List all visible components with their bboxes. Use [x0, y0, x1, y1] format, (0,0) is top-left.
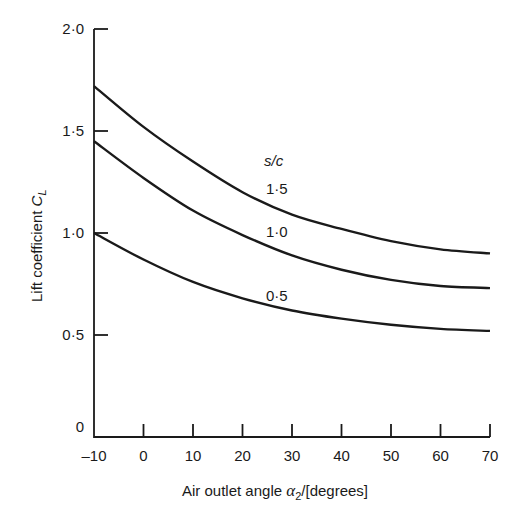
- x-axis-label: Air outlet angle α2/[degrees]: [182, 481, 368, 502]
- y-tick-label: 0·5: [62, 326, 84, 343]
- x-tick-label: 20: [234, 447, 251, 464]
- y-tick-label: 1·0: [62, 224, 84, 241]
- axes: [94, 29, 490, 437]
- x-tick-label: 10: [185, 447, 202, 464]
- series-label-0-5: 0·5: [266, 287, 288, 304]
- x-tick-label: 50: [383, 447, 400, 464]
- y-tick-label: 2·0: [62, 20, 84, 37]
- curve-sc-1-5: [94, 86, 490, 253]
- x-tick-label: 30: [284, 447, 301, 464]
- curves: [94, 86, 490, 331]
- x-axis-ticks: –10010203040506070: [81, 424, 498, 464]
- series-label-1-0: 1·0: [266, 223, 288, 240]
- x-tick-label: 60: [432, 447, 449, 464]
- axis-lines: [94, 29, 490, 437]
- x-tick-label: –10: [81, 447, 106, 464]
- legend-title: s/c: [264, 152, 284, 169]
- y-tick-label: 1·5: [62, 122, 84, 139]
- x-tick-label: 0: [139, 447, 147, 464]
- y-axis-ticks: 00·51·01·52·0: [62, 20, 108, 435]
- lift-coefficient-chart: –10010203040506070 00·51·01·52·0 s/c 1·5…: [0, 0, 519, 519]
- x-tick-label: 40: [333, 447, 350, 464]
- y-axis-label: Lift coefficient CL: [28, 189, 48, 302]
- y-tick-label: 0: [76, 418, 84, 435]
- x-tick-label: 70: [482, 447, 499, 464]
- series-label-1-5: 1·5: [266, 180, 288, 197]
